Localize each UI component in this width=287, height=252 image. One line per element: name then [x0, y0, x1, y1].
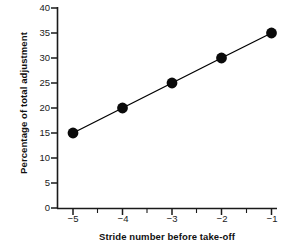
plot-area [0, 0, 287, 252]
data-point-marker [167, 78, 178, 89]
chart-figure: Percentage of total adjustment Stride nu… [0, 0, 287, 252]
data-point-marker [266, 28, 277, 39]
data-point-marker [68, 128, 79, 139]
data-point-marker [117, 103, 128, 114]
y-tick-marks [51, 8, 57, 208]
data-point-marker [216, 53, 227, 64]
x-major-tick-marks [73, 209, 272, 215]
